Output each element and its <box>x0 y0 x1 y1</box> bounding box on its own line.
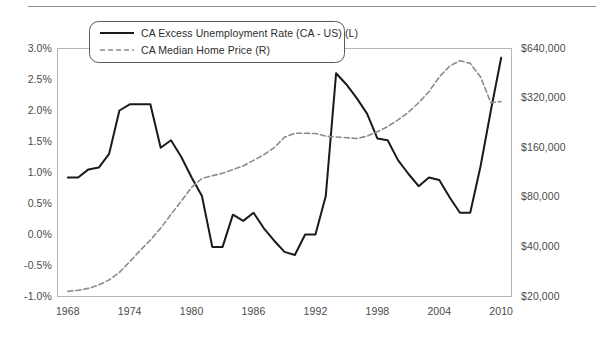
y-tick-left-0: 3.0% <box>0 42 52 54</box>
y-tick-right-0: $640,000 <box>521 42 566 54</box>
y-tick-left-7: -0.5% <box>0 259 52 271</box>
x-tick-7: 2010 <box>471 305 531 317</box>
y-tick-left-5: 0.5% <box>0 197 52 209</box>
y-tick-right-1: $320,000 <box>521 91 566 103</box>
x-tick-1: 1974 <box>100 305 160 317</box>
y-tick-left-6: 0.0% <box>0 228 52 240</box>
y-tick-left-8: -1.0% <box>0 290 52 302</box>
y-tick-right-2: $160,000 <box>521 141 566 153</box>
y-tick-left-3: 1.5% <box>0 135 52 147</box>
x-tick-5: 1998 <box>347 305 407 317</box>
y-tick-right-5: $20,000 <box>521 290 560 302</box>
y-tick-right-3: $80,000 <box>521 190 560 202</box>
x-tick-4: 1992 <box>286 305 346 317</box>
x-tick-0: 1968 <box>38 305 98 317</box>
y-tick-left-4: 1.0% <box>0 166 52 178</box>
legend-label-unemployment: CA Excess Unemployment Rate (CA - US) (L… <box>141 27 358 39</box>
legend-label-home-price: CA Median Home Price (R) <box>141 44 270 56</box>
plot-area-frame <box>58 49 512 297</box>
x-tick-2: 1980 <box>162 305 222 317</box>
x-tick-6: 2004 <box>409 305 469 317</box>
y-tick-left-1: 2.5% <box>0 73 52 85</box>
chart-figure: CA Excess Unemployment Rate (CA - US) (L… <box>0 0 608 338</box>
y-tick-left-2: 2.0% <box>0 104 52 116</box>
x-tick-3: 1986 <box>224 305 284 317</box>
chart-canvas <box>0 0 608 338</box>
y-tick-right-4: $40,000 <box>521 240 560 252</box>
